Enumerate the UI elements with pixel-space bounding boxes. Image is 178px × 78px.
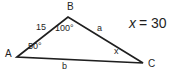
side-label-bc: a <box>97 24 102 33</box>
side-label-ab: 15 <box>36 23 46 32</box>
angle-label-a: 50° <box>28 42 42 51</box>
equation-text: x= 30 <box>129 16 167 30</box>
vertex-label-c: C <box>148 59 155 69</box>
equation-value: = 30 <box>139 15 167 31</box>
vertex-label-b: B <box>67 2 74 12</box>
angle-label-c: x <box>114 47 119 56</box>
angle-label-b: 100° <box>55 24 74 33</box>
triangle-diagram: B 15 100° a 50° A b x C x= 30 <box>0 0 178 78</box>
side-label-ac: b <box>62 62 67 71</box>
equation-variable: x <box>129 15 136 31</box>
vertex-label-a: A <box>5 49 12 59</box>
